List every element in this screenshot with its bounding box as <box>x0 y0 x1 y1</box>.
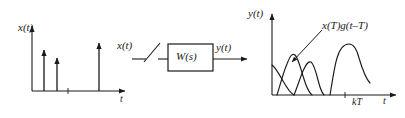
left-plot-y-axis-label: x(t) <box>18 22 33 33</box>
right-plot-curves <box>272 44 370 95</box>
right-plot-x-axis-label: t <box>383 96 386 106</box>
right-plot-sample-axis-label: kT <box>352 97 362 107</box>
response-curve-2 <box>277 54 312 95</box>
left-plot-impulses <box>44 43 99 91</box>
annotation-leader-line <box>292 30 322 62</box>
right-plot-y-axis-label: y(t) <box>248 8 263 19</box>
left-plot-axes <box>32 26 125 94</box>
block-diagram-input-label: x(t) <box>117 40 132 51</box>
transfer-function-label: W(s) <box>176 51 197 62</box>
response-curve-3 <box>294 62 324 95</box>
signal-system-figure: x(t) t x(t) W(s) y(t) y(t) x(T)g(t–T) kT… <box>0 0 405 118</box>
left-plot-x-axis-label: t <box>120 94 123 104</box>
sampler-switch-arm <box>144 43 160 62</box>
block-diagram-output-label: y(t) <box>216 42 231 53</box>
response-curve-4 <box>330 44 370 95</box>
response-curve-1 <box>272 65 294 95</box>
impulse-response-annotation: x(T)g(t–T) <box>322 20 368 31</box>
figure-canvas <box>0 0 405 118</box>
